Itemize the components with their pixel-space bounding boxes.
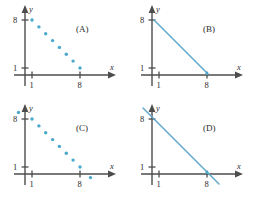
tick-label-y-8-c: 8 — [13, 114, 17, 124]
x-axis-d — [141, 171, 243, 178]
tick-label-x-8-c: 8 — [78, 179, 82, 189]
tick-label-y-8-d: 8 — [140, 114, 144, 124]
figure-root: x y 1 8 1 8 (A) — [0, 0, 254, 198]
endpoint-dot-b — [205, 72, 208, 75]
panel-c: x y 1 8 1 8 (C) — [0, 99, 127, 198]
y-axis-label-b: y — [155, 4, 160, 14]
tick-label-x-1-d: 1 — [157, 179, 161, 189]
y-axis-c — [22, 104, 29, 185]
x-axis-c — [14, 171, 116, 178]
x-axis-label-a: x — [109, 62, 114, 72]
x-axis-label-b: x — [236, 62, 241, 72]
line-segment-b — [154, 20, 207, 73]
panel-label-b: (B) — [203, 24, 215, 34]
tick-label-x-8-a: 8 — [78, 80, 82, 90]
data-points-a — [30, 18, 81, 69]
data-points-c — [17, 111, 92, 180]
panel-a: x y 1 8 1 8 (A) — [0, 0, 127, 99]
panel-label-d: (D) — [203, 123, 216, 133]
panel-label-a: (A) — [76, 24, 89, 34]
tick-label-x-8-d: 8 — [205, 179, 209, 189]
x-axis-b — [141, 72, 243, 79]
tick-label-x-1-b: 1 — [157, 80, 161, 90]
panel-b: x y 1 8 1 8 (B) — [127, 0, 254, 99]
tick-label-y-1-a: 1 — [13, 63, 17, 73]
tick-label-x-8-b: 8 — [205, 80, 209, 90]
y-axis-b — [149, 5, 156, 86]
y-axis-label-c: y — [28, 103, 33, 113]
x-axis-a — [14, 72, 116, 79]
tick-label-x-1-c: 1 — [30, 179, 34, 189]
tick-label-y-1-b: 1 — [140, 63, 144, 73]
x-axis-label-d: x — [236, 161, 241, 171]
tick-label-y-1-c: 1 — [13, 162, 17, 172]
y-axis-label-a: y — [28, 4, 33, 14]
tick-label-y-1-d: 1 — [140, 162, 144, 172]
y-axis-a — [22, 5, 29, 86]
tick-label-y-8-b: 8 — [140, 15, 144, 25]
tick-label-x-1-a: 1 — [30, 80, 34, 90]
panel-label-c: (C) — [76, 123, 88, 133]
panel-d: x y 1 8 1 8 (D) — [127, 99, 254, 198]
tick-label-y-8-a: 8 — [13, 15, 17, 25]
y-axis-label-d: y — [155, 103, 160, 113]
x-axis-label-c: x — [109, 161, 114, 171]
crossing-dot-d — [205, 171, 208, 174]
